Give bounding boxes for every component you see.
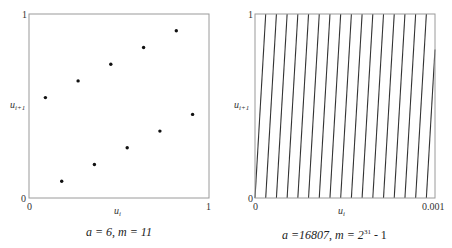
right-x-tick-max: 0.001 <box>422 202 445 212</box>
lattice-line <box>416 14 427 198</box>
lattice-line <box>351 14 362 198</box>
lattice-line <box>276 14 287 198</box>
lattice-line <box>373 14 384 198</box>
lattice-line <box>426 50 435 198</box>
left-y-axis-label: ui+1 <box>10 100 25 113</box>
data-point <box>175 29 178 32</box>
data-point <box>76 79 79 82</box>
lattice-line <box>287 14 298 198</box>
data-point <box>93 163 96 166</box>
left-x-tick-max: 1 <box>206 202 211 212</box>
left-chart-panel: 1 0 0 1 ui+1 ui a = 6, m = 11 <box>0 0 226 248</box>
lattice-line <box>394 14 405 198</box>
data-point <box>158 129 161 132</box>
lattice-line <box>362 14 373 198</box>
lattice-line <box>330 14 341 198</box>
right-chart-caption: a =16807, m = 231 - 1 <box>282 226 387 241</box>
data-point <box>60 180 63 183</box>
lattice-line <box>341 14 352 198</box>
data-point <box>109 62 112 65</box>
right-chart-panel: 1 0 0 0.001 ui+1 ui a =16807, m = 231 - … <box>226 0 452 248</box>
lattice-lines <box>255 14 435 198</box>
left-scatter-plot <box>0 0 226 248</box>
lattice-line <box>298 14 309 198</box>
left-chart-caption: a = 6, m = 11 <box>86 226 152 238</box>
data-point <box>142 46 145 49</box>
left-x-tick-min: 0 <box>27 202 32 212</box>
data-point <box>191 113 194 116</box>
lattice-line <box>309 14 320 198</box>
data-point <box>126 146 129 149</box>
lattice-line <box>319 14 330 198</box>
right-x-tick-min: 0 <box>253 202 258 212</box>
lattice-line <box>384 14 395 198</box>
right-x-axis-label: ui <box>338 206 345 219</box>
left-x-axis-label: ui <box>114 206 121 219</box>
lattice-line <box>255 14 266 198</box>
left-y-tick-min: 0 <box>21 194 26 204</box>
right-y-axis-label: ui+1 <box>234 100 249 113</box>
lattice-line <box>266 14 277 198</box>
left-y-tick-max: 1 <box>22 10 27 20</box>
left-plot-frame <box>29 14 209 198</box>
data-point <box>44 96 47 99</box>
right-y-tick-max: 1 <box>248 10 253 20</box>
lattice-line <box>405 14 416 198</box>
